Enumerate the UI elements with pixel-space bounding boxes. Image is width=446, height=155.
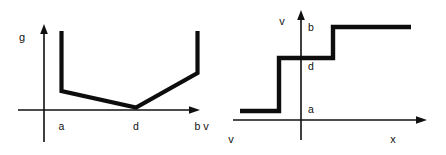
y-axis-arrowhead	[297, 10, 305, 20]
penalty-function-plot: g v a d b	[0, 0, 223, 155]
y-level-label-b: b	[308, 21, 314, 33]
penalty-curve	[62, 31, 198, 108]
step-curve	[240, 27, 411, 111]
step-function-plot: v v x b d a	[223, 0, 446, 155]
y-axis-label: g	[19, 31, 25, 43]
x-axis-arrowhead	[416, 116, 427, 124]
step-function-svg: v v x b d a	[223, 0, 446, 155]
y-axis-arrowhead	[40, 24, 48, 34]
x-axis-label: v	[203, 120, 209, 132]
y-level-label-a: a	[308, 103, 314, 115]
x-tick-label-a: a	[59, 120, 65, 132]
y-axis-label: v	[279, 15, 285, 27]
x-axis-label: x	[390, 133, 396, 145]
x-tick-label-d: d	[133, 120, 139, 132]
penalty-function-svg: g v a d b	[0, 0, 223, 155]
x-tick-label-b: b	[195, 120, 201, 132]
x-axis-arrowhead	[189, 106, 200, 114]
y-level-label-d: d	[308, 60, 314, 72]
figure-root: g v a d b v v x b d a	[0, 0, 446, 155]
corner-v-label: v	[228, 133, 234, 145]
